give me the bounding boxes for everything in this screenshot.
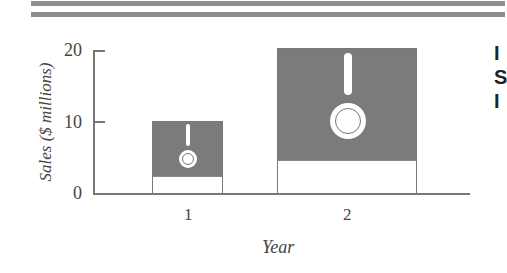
y-tick-mark-20 bbox=[93, 50, 105, 52]
floppy-label-area bbox=[153, 176, 222, 193]
y-tick-10: 10 bbox=[58, 112, 82, 133]
y-axis-label: Sales ($ millions) bbox=[36, 62, 56, 182]
y-tick-20: 20 bbox=[58, 40, 82, 61]
floppy-label-area bbox=[278, 160, 416, 193]
cropped-text-line-2: S bbox=[494, 66, 507, 89]
cropped-text-line-3: I bbox=[494, 90, 500, 113]
floppy-shutter-slot bbox=[344, 53, 352, 95]
header-rule-bottom bbox=[31, 12, 505, 17]
floppy-hub bbox=[179, 150, 197, 168]
bar-year-1-floppy-icon bbox=[152, 121, 223, 194]
cropped-text-line-1: I bbox=[494, 42, 500, 65]
x-axis-label: Year bbox=[262, 237, 294, 258]
y-tick-0: 0 bbox=[58, 183, 82, 204]
y-tick-mark-10 bbox=[93, 121, 105, 123]
floppy-shutter-slot bbox=[186, 124, 190, 146]
x-tick-1: 1 bbox=[184, 205, 193, 225]
bar-year-2-floppy-icon bbox=[277, 48, 417, 194]
x-tick-2: 2 bbox=[343, 205, 352, 225]
header-rule-top bbox=[31, 1, 505, 6]
floppy-hub bbox=[330, 103, 366, 139]
